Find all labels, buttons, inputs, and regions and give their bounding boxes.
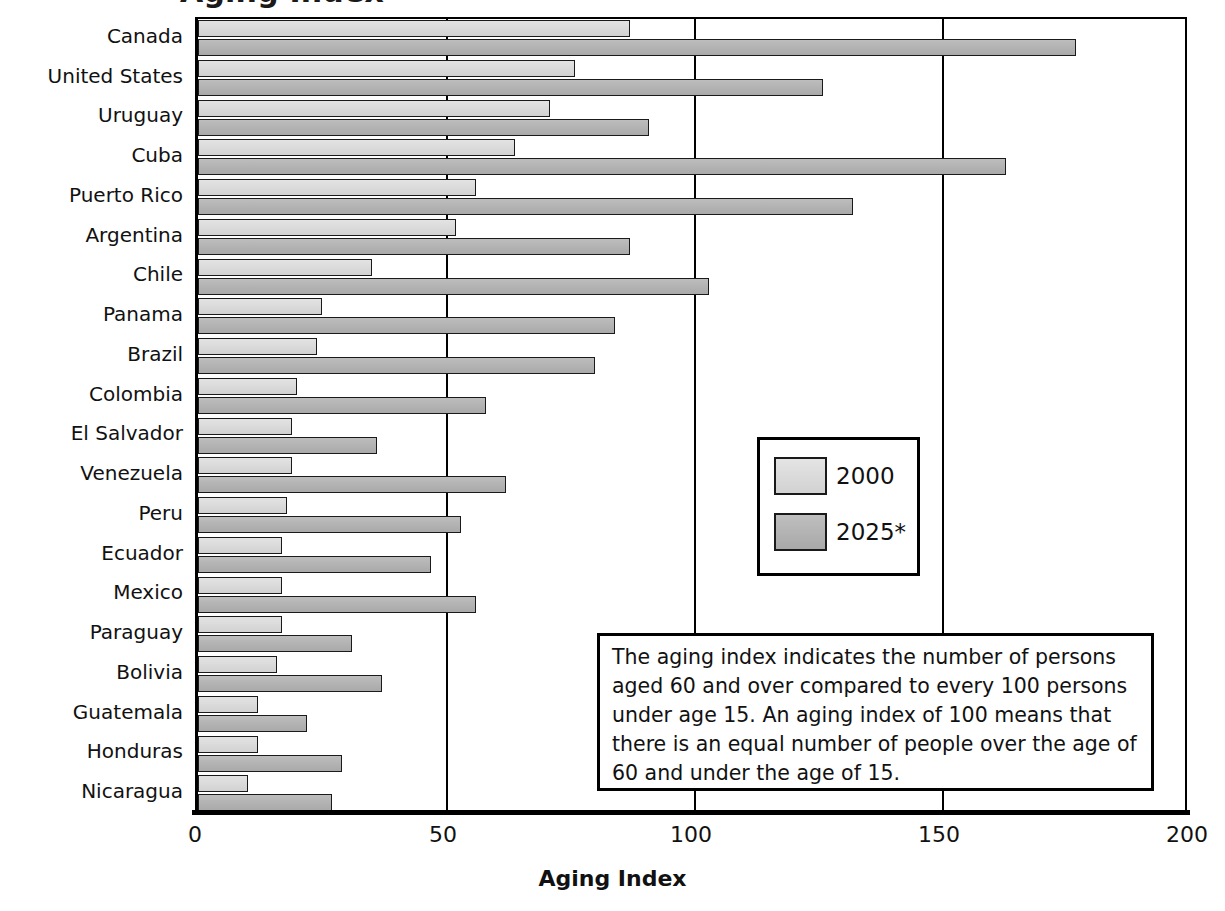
bar-uruguay-2000 (198, 100, 550, 117)
bar-group (198, 218, 1185, 258)
bar-puerto-rico-2000 (198, 179, 476, 196)
x-tick-200: 200 (1166, 822, 1208, 847)
bar-group (198, 258, 1185, 298)
bar-venezuela-2000 (198, 457, 292, 474)
bar-group (198, 99, 1185, 139)
bar-colombia-2000 (198, 378, 297, 395)
y-label-venezuela: Venezuela (0, 463, 183, 483)
bar-group (198, 496, 1185, 536)
y-label-el-salvador: El Salvador (0, 423, 183, 443)
bar-panama-2000 (198, 298, 322, 315)
bar-nicaragua-2025 (198, 794, 332, 811)
y-label-bolivia: Bolivia (0, 662, 183, 682)
bar-group (198, 456, 1185, 496)
y-label-peru: Peru (0, 503, 183, 523)
legend: 20002025* (757, 437, 920, 576)
bar-mexico-2025 (198, 596, 476, 613)
bar-group (198, 417, 1185, 457)
bar-colombia-2025 (198, 397, 486, 414)
bar-el-salvador-2000 (198, 418, 292, 435)
x-tick-0: 0 (188, 822, 202, 847)
x-tick-100: 100 (670, 822, 712, 847)
annotation-text: The aging index indicates the number of … (612, 643, 1141, 789)
chart-page: Aging Index CanadaUnited StatesUruguayCu… (0, 0, 1225, 911)
bar-puerto-rico-2025 (198, 198, 853, 215)
bar-brazil-2000 (198, 338, 317, 355)
y-label-argentina: Argentina (0, 225, 183, 245)
bar-nicaragua-2000 (198, 775, 248, 792)
bar-panama-2025 (198, 317, 615, 334)
y-label-mexico: Mexico (0, 582, 183, 602)
x-axis-title: Aging Index (0, 866, 1225, 891)
legend-swatch-light-gray (774, 457, 827, 495)
y-label-chile: Chile (0, 264, 183, 284)
bar-argentina-2025 (198, 238, 630, 255)
bar-chile-2000 (198, 259, 372, 276)
bar-bolivia-2000 (198, 656, 277, 673)
y-label-uruguay: Uruguay (0, 105, 183, 125)
bar-group (198, 138, 1185, 178)
y-label-panama: Panama (0, 304, 183, 324)
bar-el-salvador-2025 (198, 437, 377, 454)
y-label-honduras: Honduras (0, 741, 183, 761)
bar-peru-2025 (198, 516, 461, 533)
bar-group (198, 178, 1185, 218)
bar-paraguay-2025 (198, 635, 352, 652)
y-label-guatemala: Guatemala (0, 702, 183, 722)
bar-ecuador-2025 (198, 556, 431, 573)
bar-mexico-2000 (198, 577, 282, 594)
bar-venezuela-2025 (198, 476, 506, 493)
y-label-nicaragua: Nicaragua (0, 781, 183, 801)
bar-cuba-2000 (198, 139, 515, 156)
legend-label: 2025* (836, 519, 906, 545)
x-axis-line (192, 810, 1190, 815)
y-label-ecuador: Ecuador (0, 543, 183, 563)
bar-group (198, 536, 1185, 576)
bar-united-states-2000 (198, 60, 575, 77)
bar-chile-2025 (198, 278, 709, 295)
bar-uruguay-2025 (198, 119, 649, 136)
bar-canada-2025 (198, 39, 1076, 56)
bar-guatemala-2025 (198, 715, 307, 732)
bar-group (198, 377, 1185, 417)
bar-ecuador-2000 (198, 537, 282, 554)
legend-swatch-dark-gray (774, 513, 827, 551)
y-label-united-states: United States (0, 66, 183, 86)
bar-bolivia-2025 (198, 675, 382, 692)
bar-guatemala-2000 (198, 696, 258, 713)
bar-peru-2000 (198, 497, 287, 514)
bar-paraguay-2000 (198, 616, 282, 633)
bar-group (198, 19, 1185, 59)
bar-cuba-2025 (198, 158, 1006, 175)
bar-honduras-2000 (198, 736, 258, 753)
annotation-box: The aging index indicates the number of … (597, 633, 1154, 791)
bar-group (198, 59, 1185, 99)
x-tick-50: 50 (429, 822, 457, 847)
legend-label: 2000 (836, 463, 895, 489)
bar-group (198, 297, 1185, 337)
y-label-brazil: Brazil (0, 344, 183, 364)
y-label-colombia: Colombia (0, 384, 183, 404)
bar-argentina-2000 (198, 219, 456, 236)
page-title: Aging Index (180, 0, 384, 9)
bar-canada-2000 (198, 20, 630, 37)
bar-honduras-2025 (198, 755, 342, 772)
y-label-canada: Canada (0, 26, 183, 46)
bar-united-states-2025 (198, 79, 823, 96)
bar-group (198, 337, 1185, 377)
y-label-paraguay: Paraguay (0, 622, 183, 642)
y-label-puerto-rico: Puerto Rico (0, 185, 183, 205)
bar-brazil-2025 (198, 357, 595, 374)
x-tick-150: 150 (918, 822, 960, 847)
bar-group (198, 576, 1185, 616)
y-label-cuba: Cuba (0, 145, 183, 165)
